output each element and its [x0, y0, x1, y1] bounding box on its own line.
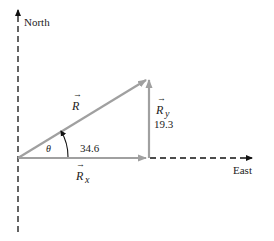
rx-subscript: x [84, 174, 90, 185]
theta-label: θ [46, 143, 51, 154]
vector-diagram: North East → R → R y 19.3 → R x 34.6 θ [0, 0, 274, 241]
rx-value: 34.6 [80, 142, 100, 154]
rx-arrow-symbol: → [76, 159, 85, 169]
east-label: East [233, 164, 252, 176]
ry-value: 19.3 [154, 118, 174, 130]
r-label: R [71, 99, 80, 113]
north-label: North [24, 16, 50, 28]
ry-arrow-symbol: → [157, 93, 166, 103]
rx-label: R [75, 169, 84, 183]
ry-label: R [155, 103, 164, 117]
r-arrow-symbol: → [73, 89, 82, 99]
angle-arc [61, 131, 68, 157]
